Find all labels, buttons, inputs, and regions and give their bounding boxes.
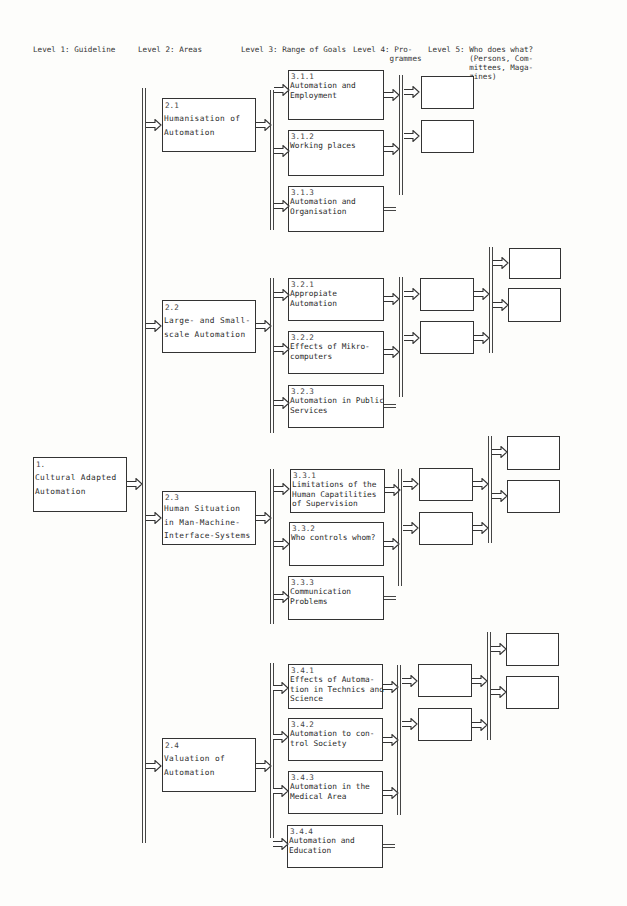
node-number: 3.2.1 [289,279,383,289]
arrow-right-icon [273,731,289,743]
node-number: 2.4 [163,739,255,752]
node-label: Automation in Public Services [289,396,383,415]
node-label: Appropiate Automation [289,289,383,308]
arrow-right-icon [493,299,509,311]
node-3-4-3: 3.4.3 Automation in the Medical Area [288,771,383,814]
node-3-1-3: 3.1.3 Automation and Organisation [288,186,384,232]
arrow-right-icon [273,785,289,797]
node-3-3-3: 3.3.3 Communication Problems [288,576,384,620]
terminal-stub [384,207,396,211]
node-label: Cultural Adapted Automation [34,471,126,498]
arrow-right-icon [274,343,290,355]
connector-bus-level-2 [142,88,146,843]
connector-bus-level-4 [399,75,403,195]
node-3-1-2: 3.1.2 Working places [288,130,384,176]
terminal-stub [384,404,396,408]
node-3-4-4: 3.4.4 Automation and Education [287,825,383,868]
node-label: Who controls whom? [290,533,383,543]
node-number: 3.1.2 [289,131,383,141]
node-number: 3.3.3 [289,577,383,587]
header-level-2: Level 2: Areas [138,45,202,54]
programme-box [421,76,474,109]
programme-box [419,512,473,545]
arrow-right-icon [472,719,488,731]
node-number: 3.3.1 [291,470,384,480]
arrow-right-icon [384,89,400,101]
node-label: Large- and Small- scale Automation [163,314,255,341]
node-3-1-1: 3.1.1 Automation and Employment [288,70,384,120]
arrow-right-icon [127,478,143,490]
node-label: Automation in the Medical Area [289,782,382,801]
node-label: Automation and Organisation [289,197,383,216]
arrow-right-icon [403,478,419,490]
programme-box [420,278,474,311]
terminal-stub [383,844,395,848]
arrow-right-icon [274,483,290,495]
arrow-right-icon [404,86,420,98]
node-2-4: 2.4 Valuation of Automation [162,738,256,792]
node-label: Communication Problems [289,587,383,606]
arrow-right-icon [402,718,418,730]
header-level-3: Level 3: Range of Goals [241,45,346,54]
arrow-right-icon [274,289,290,301]
header-level-1: Level 1: Guideline [33,45,115,54]
node-number: 2.1 [163,99,255,112]
responsible-box [507,436,560,470]
responsible-box [506,633,559,666]
arrow-right-icon [146,760,162,772]
arrow-right-icon [274,84,290,96]
connector-bus-level-4 [399,277,403,397]
arrow-right-icon [146,512,162,524]
node-label: Automation and Education [288,836,382,855]
arrow-right-icon [404,288,420,300]
node-label: Automation to con- trol Society [289,729,382,748]
programme-box [418,664,472,697]
arrow-right-icon [273,682,289,694]
arrow-right-icon [402,675,418,687]
node-number: 3.4.2 [289,719,382,729]
arrow-right-icon [146,119,162,131]
responsible-box [507,480,560,513]
connector-bus-level-4 [397,665,401,815]
node-label: Effects of Automa- tion in Technics and … [289,675,382,704]
arrow-right-icon [404,130,420,142]
node-2-3: 2.3 Human Situation in Man-Machine- Inte… [162,491,256,545]
arrow-right-icon [492,490,508,502]
node-number: 3.4.1 [289,665,382,675]
node-3-2-1: 3.2.1 Appropiate Automation [288,278,384,321]
node-3-2-3: 3.2.3 Automation in Public Services [288,385,384,428]
programme-box [418,708,472,741]
responsible-box [509,248,561,279]
arrow-right-icon [384,143,400,155]
node-number: 3.1.1 [289,71,383,81]
terminal-stub [384,596,396,600]
node-number: 1. [34,458,126,471]
arrow-right-icon [274,200,290,212]
arrow-right-icon [274,397,290,409]
programme-box [420,321,474,354]
arrow-right-icon [274,538,290,550]
arrow-right-icon [403,522,419,534]
node-3-4-2: 3.4.2 Automation to con- trol Society [288,718,383,761]
node-number: 3.3.2 [290,523,383,533]
node-number: 3.2.2 [289,332,383,342]
arrow-right-icon [491,643,507,655]
programme-box [421,120,474,153]
arrow-right-icon [472,675,488,687]
node-number: 2.2 [163,301,255,314]
node-label: Limitations of the Human Capatilities of… [291,480,384,509]
node-2-1: 2.1 Humanisation of Automation [162,98,256,152]
arrow-right-icon [404,332,420,344]
node-number: 3.4.3 [289,772,382,782]
arrow-right-icon [384,293,400,305]
node-3-3-1: 3.3.1 Limitations of the Human Capatilit… [290,469,385,513]
node-label: Human Situation in Man-Machine- Interfac… [163,502,255,543]
arrow-right-icon [493,257,509,269]
node-3-2-2: 3.2.2 Effects of Mikro- computers [288,331,384,374]
arrow-right-icon [492,446,508,458]
node-number: 2.3 [163,492,255,502]
node-2-2: 2.2 Large- and Small- scale Automation [162,300,256,353]
arrow-right-icon [274,591,290,603]
arrow-right-icon [274,145,290,157]
node-label: Working places [289,141,383,151]
